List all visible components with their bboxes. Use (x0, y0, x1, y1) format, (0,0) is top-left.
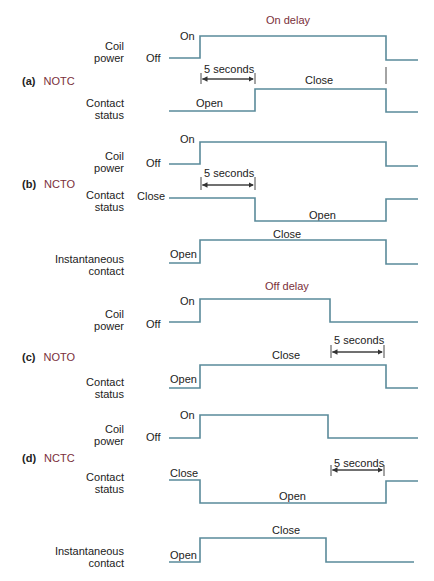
c-contact-wave (169, 365, 418, 388)
d-contact-wave (169, 480, 418, 503)
a-contact-wave (169, 89, 418, 112)
d-coil-wave (169, 415, 418, 438)
a-coil-wave (169, 36, 418, 60)
d-inst-wave (169, 538, 414, 562)
timing-waveforms (0, 0, 434, 581)
b-contact-wave (169, 198, 418, 221)
b-inst-wave (169, 240, 418, 264)
b-coil-wave (169, 142, 418, 166)
c-coil-wave (169, 299, 418, 322)
